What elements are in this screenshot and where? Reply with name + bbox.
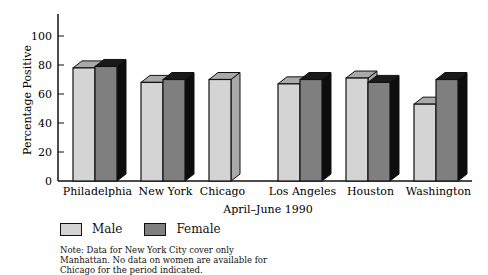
chart-note: Note: Data for New York City cover only … [60,245,280,275]
note-line: Note: Data for New York City cover only [60,245,280,255]
legend-label-male: Male [92,222,122,236]
x-category-label: Chicago [200,185,246,198]
legend-item-male: Male [60,222,122,236]
note-line: Chicago for the period indicated. [60,265,280,275]
legend-label-female: Female [176,222,220,236]
y-tick-label: 40 [38,117,52,130]
y-tick-label: 60 [38,88,52,101]
bar-male [209,80,231,182]
y-tick-label: 20 [38,146,52,159]
bar-side [390,75,399,181]
bar-side [231,73,240,182]
legend-item-female: Female [144,222,220,236]
y-tick-label: 0 [45,175,52,188]
bar-side [458,73,467,182]
bar-female [436,80,458,182]
bar-male [73,68,95,181]
x-category-label: New York [139,185,193,198]
male-swatch [60,223,82,236]
legend: Male Female [60,222,243,236]
x-category-label: Los Angeles [269,185,337,198]
y-axis-label: Percentage Positive [21,45,34,155]
y-tick-label: 80 [38,59,52,72]
bar-male [278,84,300,181]
bar-female [95,66,117,181]
bar-female [300,80,322,182]
x-axis-label: April–June 1990 [222,203,312,215]
x-category-label: Washington [406,185,471,198]
bar-male [141,82,163,181]
y-tick-label: 100 [31,30,52,43]
bar-chart: 020406080100Percentage PositivePhiladelp… [0,0,488,215]
bar-side [322,73,331,182]
bar-female [368,82,390,181]
bar-male [346,78,368,181]
bar-side [117,59,126,181]
x-category-label: Houston [347,185,394,198]
x-category-label: Philadelphia [63,185,133,198]
female-swatch [144,223,166,236]
bar-male [414,104,436,181]
bar-female [163,80,185,182]
note-line: Manhattan. No data on women are availabl… [60,255,280,265]
bar-side [185,73,194,182]
